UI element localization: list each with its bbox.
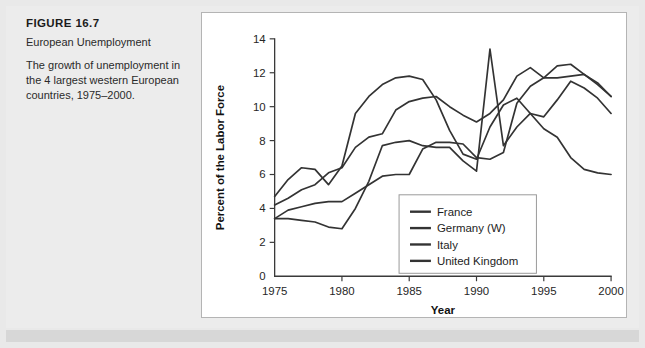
y-tick-label: 4 xyxy=(259,202,266,214)
figure-caption: FIGURE 16.7 European Unemployment The gr… xyxy=(26,16,194,103)
chart-legend: FranceGermany (W)ItalyUnited Kingdom xyxy=(399,195,536,273)
x-tick-label: 1995 xyxy=(531,285,556,297)
y-tick-label: 6 xyxy=(259,168,265,180)
legend-label: France xyxy=(437,206,473,218)
unemployment-line-chart: 02468101214197519801985199019952000 Fran… xyxy=(202,13,626,317)
x-tick-label: 1980 xyxy=(329,285,354,297)
y-tick-label: 0 xyxy=(259,270,265,282)
y-tick-label: 8 xyxy=(259,135,265,147)
x-tick-label: 1985 xyxy=(396,285,421,297)
figure-page: FIGURE 16.7 European Unemployment The gr… xyxy=(0,0,645,348)
legend-label: United Kingdom xyxy=(437,255,518,267)
y-tick-label: 10 xyxy=(253,101,266,113)
x-tick-label: 2000 xyxy=(598,285,623,297)
legend-label: Italy xyxy=(437,239,458,251)
y-tick-label: 12 xyxy=(253,67,266,79)
figure-description: The growth of unemployment in the 4 larg… xyxy=(26,58,194,104)
x-tick-label: 1990 xyxy=(464,285,489,297)
chart-panel: 02468101214197519801985199019952000 Fran… xyxy=(201,12,627,318)
page-shadow xyxy=(6,330,639,342)
y-tick-label: 2 xyxy=(259,236,265,248)
figure-title: European Unemployment xyxy=(26,35,194,50)
figure-number: FIGURE 16.7 xyxy=(26,16,194,30)
x-tick-label: 1975 xyxy=(262,285,287,297)
y-axis-title: Percent of the Labor Force xyxy=(214,85,226,230)
legend-label: Germany (W) xyxy=(437,222,506,234)
x-axis-title: Year xyxy=(431,304,456,316)
y-tick-label: 14 xyxy=(253,33,266,45)
series-line-france xyxy=(275,64,611,205)
